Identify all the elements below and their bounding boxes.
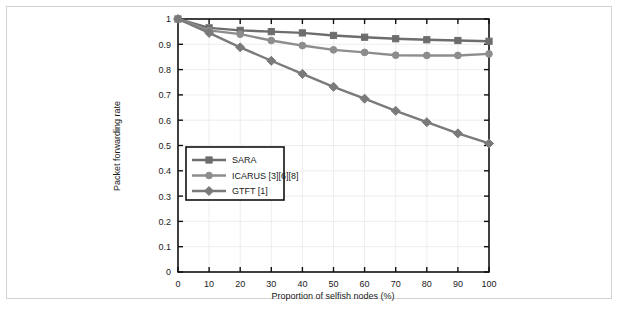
- series-marker: [267, 56, 276, 65]
- y-axis-tick-label: 0: [166, 267, 171, 277]
- series-marker: [486, 38, 492, 44]
- y-axis-tick-labels: 00.10.20.30.40.50.60.70.80.91: [158, 14, 171, 277]
- series-marker: [237, 31, 244, 38]
- x-axis-tick-label: 90: [453, 279, 463, 289]
- legend-item-label: GTFT [1]: [232, 186, 268, 196]
- y-axis-tick-label: 1: [166, 14, 171, 24]
- figure-caption-fragment: [8, 307, 608, 316]
- legend-item-label: SARA: [232, 155, 257, 165]
- x-axis-tick-label: 50: [328, 279, 338, 289]
- legend-sample-marker: [206, 172, 213, 179]
- y-axis-tick-label: 0.3: [158, 192, 171, 202]
- series-marker: [455, 37, 461, 43]
- x-axis-tick-label: 100: [481, 279, 496, 289]
- series-marker: [453, 129, 462, 138]
- series-marker: [392, 52, 399, 59]
- chart-legend[interactable]: SARAICARUS [3][6][8]GTFT [1]: [186, 147, 299, 200]
- series-marker: [298, 69, 307, 78]
- series-marker: [268, 29, 274, 35]
- series-marker: [486, 51, 493, 58]
- series-marker: [424, 37, 430, 43]
- y-axis-tick-label: 0.9: [158, 40, 171, 50]
- figure-screenshot: 0102030405060708090100 00.10.20.30.40.50…: [0, 0, 619, 316]
- x-axis-tick-label: 0: [175, 279, 180, 289]
- x-axis-tick-label: 30: [266, 279, 276, 289]
- x-axis-tick-label: 20: [235, 279, 245, 289]
- series-marker: [393, 36, 399, 42]
- y-axis-tick-label: 0.7: [158, 90, 171, 100]
- series-marker: [455, 52, 462, 59]
- x-axis-tick-label: 70: [391, 279, 401, 289]
- series-marker: [329, 82, 338, 91]
- y-axis-tick-label: 0.5: [158, 141, 171, 151]
- x-axis-title: Proportion of selfish nodes (%): [271, 291, 394, 301]
- y-axis-tick-label: 0.1: [158, 242, 171, 252]
- chart-gridlines: [178, 19, 489, 272]
- series-marker: [362, 34, 368, 40]
- x-axis-tick-label: 60: [360, 279, 370, 289]
- series-marker: [391, 106, 400, 115]
- series-marker: [361, 49, 368, 56]
- y-axis-tick-label: 0.6: [158, 116, 171, 126]
- series-marker: [423, 52, 430, 59]
- series-marker: [299, 30, 305, 36]
- legend-item-label: ICARUS [3][6][8]: [232, 171, 299, 181]
- packet-forwarding-rate-chart: 0102030405060708090100 00.10.20.30.40.50…: [0, 0, 619, 316]
- x-axis-tick-labels: 0102030405060708090100: [175, 279, 496, 289]
- x-axis-tick-label: 80: [422, 279, 432, 289]
- x-axis-tick-label: 10: [204, 279, 214, 289]
- series-marker: [268, 37, 275, 44]
- series-marker: [330, 47, 337, 54]
- y-axis-tick-label: 0.4: [158, 166, 171, 176]
- series-marker: [485, 139, 494, 148]
- legend-sample-marker: [206, 157, 212, 163]
- y-axis-tick-label: 0.2: [158, 217, 171, 227]
- chart-plot-area: 0102030405060708090100 00.10.20.30.40.50…: [0, 0, 619, 316]
- series-marker: [360, 94, 369, 103]
- series-marker: [330, 32, 336, 38]
- series-marker: [422, 118, 431, 127]
- series-marker: [299, 42, 306, 49]
- y-axis-tick-label: 0.8: [158, 65, 171, 75]
- y-axis-title: Packet forwarding rate: [112, 101, 122, 191]
- x-axis-tick-label: 40: [297, 279, 307, 289]
